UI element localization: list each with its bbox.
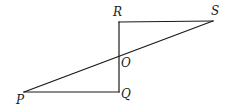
label-q: Q	[121, 87, 131, 101]
label-o: O	[121, 56, 131, 70]
label-p: P	[15, 93, 25, 107]
label-s: S	[211, 4, 219, 18]
label-r: R	[112, 5, 122, 19]
geometry-diagram: R S O Q P	[0, 0, 231, 109]
segment-rs	[119, 21, 213, 22]
